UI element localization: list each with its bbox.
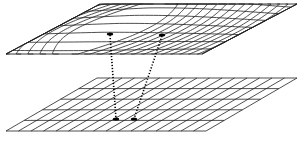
top-surface-point <box>159 33 165 36</box>
grid-column-line <box>119 78 210 131</box>
warped-column-line <box>28 4 131 54</box>
grid-column-line <box>181 78 272 131</box>
warped-grid-surface <box>6 4 297 54</box>
surface-mapping-diagram <box>0 0 304 142</box>
grid-column-line <box>106 78 197 131</box>
warped-column-line <box>16 4 120 54</box>
grid-column-line <box>156 78 247 131</box>
grid-column-line <box>194 78 285 131</box>
bottom-surface-point <box>131 117 137 120</box>
grid-column-line <box>56 78 147 131</box>
grid-column-line <box>6 78 97 131</box>
grid-column-line <box>131 78 222 131</box>
flat-grid-surface <box>6 78 297 131</box>
grid-column-line <box>19 78 110 131</box>
grid-column-line <box>81 78 172 131</box>
grid-column-line <box>144 78 235 131</box>
grid-column-line <box>44 78 135 131</box>
grid-column-line <box>206 78 297 131</box>
diagram-canvas <box>0 0 304 142</box>
top-surface-point <box>107 32 113 35</box>
grid-column-line <box>169 78 260 131</box>
grid-column-line <box>31 78 122 131</box>
bottom-surface-point <box>113 117 119 120</box>
